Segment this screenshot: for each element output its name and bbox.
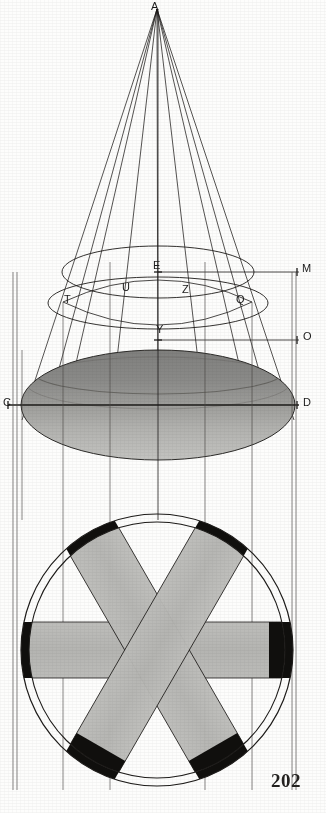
- plan-view: [0, 500, 326, 810]
- figure-plate: [0, 0, 326, 813]
- page-folio-number: 202: [271, 770, 301, 792]
- label-D: D: [303, 397, 311, 408]
- label-C: C: [3, 397, 11, 408]
- label-T: T: [64, 294, 71, 305]
- label-Y: Y: [156, 324, 163, 335]
- label-E: E: [153, 260, 160, 271]
- label-M: M: [302, 263, 311, 274]
- label-Z: Z: [182, 284, 189, 295]
- label-A: A: [151, 1, 158, 12]
- label-O: O: [303, 331, 312, 342]
- label-Q: Q: [236, 294, 245, 305]
- label-U: U: [122, 282, 130, 293]
